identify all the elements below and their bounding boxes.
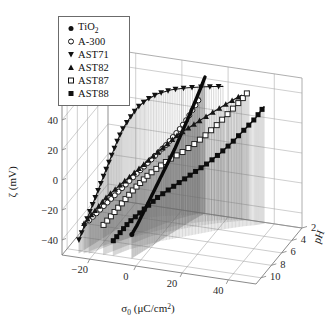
- svg-text:10: 10: [270, 271, 281, 282]
- legend-label: TiO2: [78, 21, 99, 36]
- svg-text:6: 6: [291, 246, 296, 257]
- legend-label: AST88: [78, 88, 109, 99]
- svg-text:20: 20: [48, 145, 59, 156]
- filled-circle-icon: [65, 23, 78, 34]
- legend-item-ast88[interactable]: AST88: [65, 87, 125, 100]
- filled-up-triangle-icon: [65, 62, 78, 73]
- filled-down-triangle-icon: [65, 49, 78, 60]
- filled-square-icon: [65, 88, 78, 99]
- svg-text:40: 40: [48, 115, 59, 126]
- svg-text:0: 0: [123, 271, 128, 282]
- legend-item-a-300[interactable]: A-300: [65, 35, 125, 48]
- legend-label: A-300: [78, 36, 105, 47]
- svg-text:−20: −20: [42, 205, 58, 216]
- legend-item-ast71[interactable]: AST71: [65, 48, 125, 61]
- svg-text:4: 4: [301, 234, 307, 245]
- svg-text:0: 0: [53, 175, 58, 186]
- y-axis-label: ζ (mV): [6, 166, 19, 197]
- legend-label: AST87: [78, 75, 109, 86]
- three-d-plot: 40200−20−40ζ (mV)−2002040σ0 (μC/cm2)2468…: [0, 0, 336, 324]
- legend-item-ast82[interactable]: AST82: [65, 61, 125, 74]
- x-axis-label: σ0 (μC/cm2): [121, 302, 175, 318]
- svg-text:8: 8: [280, 259, 285, 270]
- svg-text:−40: −40: [42, 235, 58, 246]
- legend-label: AST71: [78, 49, 109, 60]
- figure-canvas: 40200−20−40ζ (mV)−2002040σ0 (μC/cm2)2468…: [0, 0, 336, 324]
- legend-item-tio2[interactable]: TiO2: [65, 22, 125, 35]
- legend-item-ast87[interactable]: AST87: [65, 74, 125, 87]
- svg-text:40: 40: [213, 285, 224, 296]
- series-legend[interactable]: TiO2A-300AST71AST82AST87AST88: [58, 16, 130, 106]
- legend-label: AST82: [78, 62, 109, 73]
- open-square-icon: [65, 75, 78, 86]
- open-circle-icon: [65, 36, 78, 47]
- svg-text:20: 20: [167, 278, 178, 289]
- svg-text:−20: −20: [72, 264, 88, 275]
